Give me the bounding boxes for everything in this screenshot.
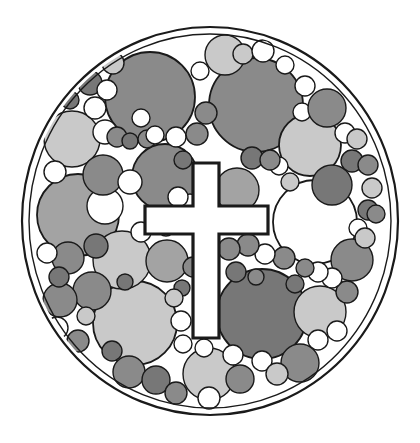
packed-circle <box>122 133 138 149</box>
packed-circle <box>226 365 254 393</box>
packed-circle <box>296 259 314 277</box>
circle-packed-cross-emblem <box>0 0 420 443</box>
packed-circle <box>73 272 111 310</box>
packed-circle <box>186 123 208 145</box>
packed-circle <box>84 97 106 119</box>
packed-circle <box>223 345 243 365</box>
packed-circle <box>295 76 315 96</box>
packed-circle <box>132 109 150 127</box>
packed-circle <box>273 247 295 269</box>
packed-circle <box>237 234 259 256</box>
packed-circle <box>165 382 187 404</box>
packed-circle <box>83 155 123 195</box>
packed-circle <box>168 187 188 207</box>
packed-circle <box>276 56 294 74</box>
packed-circle <box>233 44 253 64</box>
packed-circle <box>195 339 213 357</box>
packed-circle <box>286 275 304 293</box>
packed-circle <box>248 269 264 285</box>
packed-circle <box>358 155 378 175</box>
packed-circle <box>308 89 346 127</box>
packed-circle <box>218 238 240 260</box>
packed-circle <box>362 178 382 198</box>
packed-circle <box>226 262 246 282</box>
packed-circle <box>117 274 133 290</box>
packed-circle <box>191 62 209 80</box>
packed-circle <box>44 161 66 183</box>
artwork-canvas <box>0 0 420 443</box>
packed-circle <box>166 127 186 147</box>
packed-circle <box>146 126 164 144</box>
packed-circle <box>195 102 217 124</box>
packed-circle <box>84 234 108 258</box>
packed-circle <box>266 363 288 385</box>
packed-circle <box>308 330 328 350</box>
packed-circle <box>260 150 280 170</box>
packed-circle <box>49 267 69 287</box>
packed-circle <box>97 80 117 100</box>
packed-circle <box>77 307 95 325</box>
packed-circle <box>252 40 274 62</box>
packed-circle <box>174 151 192 169</box>
packed-circle <box>171 311 191 331</box>
packed-circle <box>355 228 375 248</box>
packed-circle <box>174 335 192 353</box>
packed-circle <box>198 387 220 409</box>
packed-circle <box>37 243 57 263</box>
packed-circle <box>367 205 385 223</box>
packed-circle <box>327 321 347 341</box>
packed-circle <box>118 170 142 194</box>
packed-circle <box>146 240 188 282</box>
packed-circle <box>347 129 367 149</box>
packed-circle <box>113 356 145 388</box>
packed-circle <box>165 289 183 307</box>
packed-circle <box>281 173 299 191</box>
packed-circle <box>102 341 122 361</box>
